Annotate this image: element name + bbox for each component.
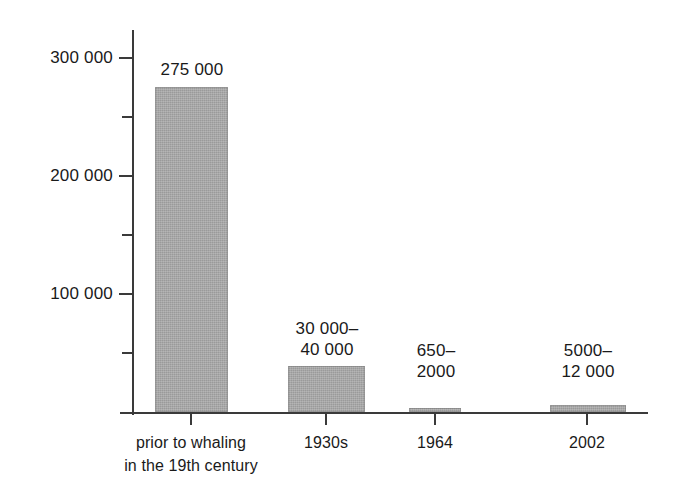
- y-axis-tick-minor-150000: [122, 234, 133, 236]
- y-axis-tick-major-300000: [119, 57, 133, 59]
- bar-value-label-1964: 650– 2000: [392, 340, 480, 382]
- x-axis-category-label-1930s: 1930s: [276, 431, 376, 454]
- y-axis-line: [132, 30, 134, 415]
- y-axis-tick-minor-250000: [122, 116, 133, 118]
- y-axis-label-200000-wrap: 200 000: [0, 167, 113, 184]
- x-axis-category-label-2002: 2002: [539, 431, 635, 454]
- x-axis-category-label-1964: 1964: [387, 431, 483, 454]
- y-axis-label-100000: 100 000: [5, 285, 113, 302]
- bar-1930s: [288, 366, 365, 412]
- x-axis-category-label-prior-to-whaling: prior to whaling in the 19th century: [101, 431, 281, 477]
- y-axis-tick-major-200000: [119, 175, 133, 177]
- x-axis-tick-1: [325, 414, 327, 425]
- x-axis-tick-2: [434, 414, 436, 425]
- bar-2002: [550, 405, 626, 412]
- y-axis-label-300000-wrap: 300 000: [0, 49, 113, 66]
- x-axis-tick-3: [586, 414, 588, 425]
- bar-value-label-2002: 5000– 12 000: [528, 340, 648, 382]
- y-axis-label-200000: 200 000: [5, 167, 113, 184]
- y-axis-tick-minor-50000: [122, 352, 133, 354]
- bar-prior-to-whaling: [155, 87, 228, 412]
- y-axis-label-100000-wrap: 100 000: [0, 285, 113, 302]
- bar-1964: [409, 408, 461, 412]
- x-axis-tick-0: [190, 414, 192, 425]
- y-axis-tick-major-100000: [119, 293, 133, 295]
- bar-value-label-1930s: 30 000– 40 000: [270, 318, 384, 360]
- bar-chart: 300 000 200 000 100 000 275 000 30 000– …: [0, 0, 688, 494]
- y-axis-label-300000: 300 000: [5, 49, 113, 66]
- x-axis-line: [120, 412, 648, 414]
- bar-value-label-prior-to-whaling: 275 000: [136, 59, 248, 80]
